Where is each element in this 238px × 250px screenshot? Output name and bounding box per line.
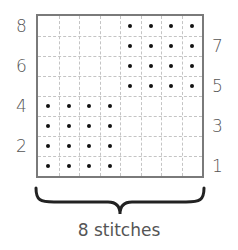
purl-dot-icon — [169, 24, 173, 28]
purl-dot-icon — [190, 64, 194, 68]
purl-dot-icon — [169, 64, 173, 68]
purl-dot-icon — [46, 104, 50, 108]
row-label-left: 6 — [16, 58, 27, 75]
brace-icon — [34, 186, 206, 216]
purl-dot-icon — [128, 44, 132, 48]
purl-dot-icon — [87, 144, 91, 148]
purl-dot-icon — [46, 144, 50, 148]
purl-dot-icon — [128, 84, 132, 88]
grid-row-line — [38, 156, 202, 157]
purl-dot-icon — [190, 24, 194, 28]
purl-dot-icon — [87, 164, 91, 168]
stitch-count-caption: 8 stitches — [0, 220, 238, 240]
purl-dot-icon — [108, 104, 112, 108]
purl-dot-icon — [149, 64, 153, 68]
grid-row-line — [38, 56, 202, 57]
grid-row-line — [38, 36, 202, 37]
grid-row-line — [38, 116, 202, 117]
purl-dot-icon — [169, 84, 173, 88]
purl-dot-icon — [46, 124, 50, 128]
purl-dot-icon — [108, 124, 112, 128]
purl-dot-icon — [87, 104, 91, 108]
purl-dot-icon — [67, 164, 71, 168]
row-label-left: 2 — [16, 138, 27, 155]
grid-row-line — [38, 76, 202, 77]
grid-row-line — [38, 136, 202, 137]
row-label-left: 8 — [16, 18, 27, 35]
row-label-right: 5 — [212, 78, 223, 95]
stitch-grid — [36, 14, 204, 178]
purl-dot-icon — [149, 44, 153, 48]
purl-dot-icon — [149, 84, 153, 88]
purl-dot-icon — [190, 84, 194, 88]
row-label-left: 4 — [16, 98, 27, 115]
purl-dot-icon — [108, 144, 112, 148]
purl-dot-icon — [108, 164, 112, 168]
row-label-right: 7 — [212, 38, 223, 55]
purl-dot-icon — [67, 144, 71, 148]
row-label-right: 3 — [212, 118, 223, 135]
purl-dot-icon — [67, 104, 71, 108]
purl-dot-icon — [46, 164, 50, 168]
purl-dot-icon — [169, 44, 173, 48]
purl-dot-icon — [149, 24, 153, 28]
purl-dot-icon — [190, 44, 194, 48]
purl-dot-icon — [128, 24, 132, 28]
purl-dot-icon — [128, 64, 132, 68]
purl-dot-icon — [87, 124, 91, 128]
purl-dot-icon — [67, 124, 71, 128]
grid-row-line — [38, 96, 202, 97]
row-label-right: 1 — [212, 158, 223, 175]
